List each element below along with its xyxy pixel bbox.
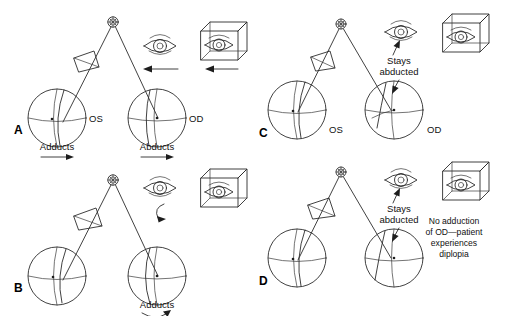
pathway-arm-right-b: [116, 185, 159, 276]
globe-od-label-a: OD: [189, 113, 203, 124]
note-pointer-down-c: [392, 80, 399, 94]
eye-in-box-icon-b: [201, 169, 247, 207]
lesion-wedge-a: [74, 51, 99, 72]
ocular-motility-figure: OS OD A Adducts Abducts: [0, 0, 506, 316]
note-abducted-c: abducted: [379, 66, 418, 77]
pathway-arm-left-b: [63, 185, 111, 280]
panel-d: Stays abducted No adduction of OD—patien…: [253, 158, 506, 316]
eye-open-icon-d: [385, 169, 417, 189]
eye-open-icon-b: [144, 177, 176, 197]
globe-od-a: [128, 89, 186, 147]
action-arrow-curved-b: [142, 310, 171, 316]
eye-rotation-arrow-b: [156, 204, 166, 222]
action-label-adducts-b: Adducts: [140, 299, 175, 310]
panel-letter-c: C: [259, 126, 268, 140]
note-diplopia-line4-d: diplopia: [439, 249, 469, 259]
eye-in-box-icon-a: [201, 22, 247, 60]
note-diplopia-line2-d: of OD—patient: [426, 227, 483, 237]
nucleus-apex-c: [336, 19, 346, 29]
panel-a: OS OD A Adducts Abducts: [0, 0, 253, 158]
note-stays-d: Stays: [387, 203, 411, 214]
lesion-wedge-d: [308, 198, 335, 219]
nucleus-apex-b: [108, 175, 118, 185]
action-label-adducts-a: Adducts: [40, 141, 75, 152]
eye-direction-arrow-a: [143, 66, 178, 73]
globe-os-label-c: OS: [329, 124, 343, 135]
panel-c: Stays abducted OS OD C: [253, 0, 506, 158]
note-pointer-up-d: [393, 188, 400, 203]
note-diplopia-line3-d: experiences: [431, 238, 477, 248]
panel-letter-b: B: [14, 281, 23, 295]
panel-letter-a: A: [14, 123, 23, 137]
pathway-arm-left-a: [63, 27, 111, 122]
globe-os-a: [28, 89, 86, 147]
note-stays-c: Stays: [387, 55, 411, 66]
box-direction-arrow-a: [205, 66, 238, 73]
eye-open-icon-a: [144, 35, 176, 55]
globe-os-d: [268, 229, 326, 287]
globe-od-b: [128, 247, 186, 305]
eye-open-icon-c: [385, 21, 417, 41]
note-pointer-up-c: [393, 40, 400, 55]
nucleus-apex-d: [336, 167, 346, 177]
panel-letter-d: D: [259, 274, 268, 288]
note-pointer-down-d: [392, 228, 399, 242]
panel-b: B Adducts: [0, 158, 253, 316]
note-diplopia-line1-d: No adduction: [429, 216, 480, 226]
eye-in-box-icon-d: [443, 162, 489, 200]
globe-os-label-a: OS: [89, 113, 103, 124]
globe-od-label-c: OD: [427, 124, 441, 135]
globe-os-c: [268, 81, 326, 139]
note-abducted-d: abducted: [379, 214, 418, 225]
globe-os-b: [28, 247, 86, 305]
action-label-abducts-a: Abducts: [140, 141, 175, 152]
pathway-arm-right-a: [116, 27, 159, 118]
nucleus-apex-a: [108, 17, 118, 27]
eye-in-box-icon-c: [443, 14, 489, 52]
